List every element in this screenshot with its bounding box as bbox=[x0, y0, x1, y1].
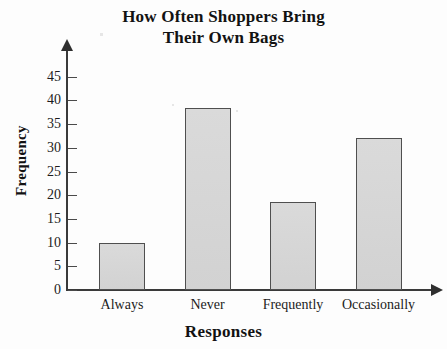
scan-speckle bbox=[172, 104, 174, 106]
y-axis-tick-label: 15 bbox=[33, 211, 61, 227]
y-axis-tick bbox=[68, 77, 77, 78]
scan-speckle bbox=[236, 110, 238, 112]
y-axis-tick-label: 10 bbox=[33, 235, 61, 251]
y-axis-tick bbox=[68, 148, 77, 149]
y-axis-title: Frequency bbox=[13, 106, 30, 216]
y-axis-tick bbox=[68, 266, 77, 267]
y-axis-tick bbox=[68, 219, 77, 220]
y-axis-tick bbox=[68, 172, 77, 173]
y-axis-tick-label: 5 bbox=[33, 258, 61, 274]
bar-chart-figure: How Often Shoppers Bring Their Own Bags … bbox=[0, 0, 447, 349]
y-axis-line bbox=[66, 48, 68, 291]
y-axis-tick bbox=[68, 195, 77, 196]
bar bbox=[185, 108, 231, 290]
y-axis-tick-label: 35 bbox=[33, 116, 61, 132]
bar bbox=[356, 138, 402, 290]
y-axis-tick-label: 40 bbox=[33, 92, 61, 108]
x-axis-title: Responses bbox=[0, 322, 447, 342]
x-axis-arrowhead-icon bbox=[431, 284, 443, 296]
x-axis-tick-label: Occasionally bbox=[329, 297, 429, 313]
bar bbox=[270, 202, 316, 290]
y-axis-tick-label: 0 bbox=[33, 282, 61, 298]
chart-title-line-1: How Often Shoppers Bring bbox=[122, 7, 325, 26]
y-axis-tick-label: 20 bbox=[33, 187, 61, 203]
y-axis-tick-labels: 051015202530354045 bbox=[30, 0, 61, 349]
y-axis-tick bbox=[68, 290, 77, 291]
y-axis-tick bbox=[68, 124, 77, 125]
bar bbox=[99, 243, 145, 290]
y-axis-tick bbox=[68, 243, 77, 244]
scan-speckle bbox=[100, 33, 103, 36]
y-axis-tick-label: 30 bbox=[33, 140, 61, 156]
y-axis-tick-label: 25 bbox=[33, 164, 61, 180]
y-axis-tick bbox=[68, 100, 77, 101]
y-axis-arrowhead-icon bbox=[61, 39, 73, 51]
y-axis-tick-label: 45 bbox=[33, 69, 61, 85]
